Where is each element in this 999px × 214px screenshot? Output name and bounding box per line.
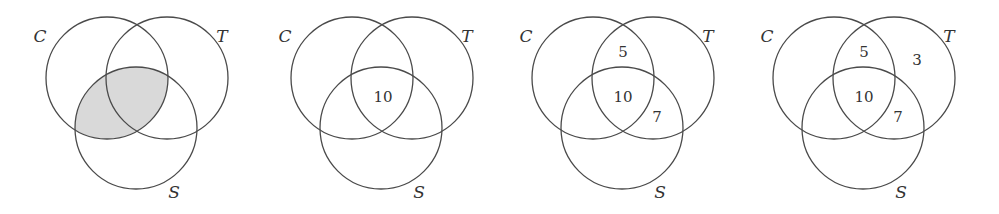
- region-count: 5: [618, 43, 628, 61]
- set-label-s: S: [168, 182, 180, 202]
- circle-c: [773, 17, 895, 139]
- region-count: 5: [859, 43, 869, 61]
- panel-2: CTS10: [278, 17, 474, 202]
- panel-3: CTS5107: [519, 17, 715, 202]
- region-count: 3: [912, 51, 922, 69]
- circle-s: [802, 67, 924, 189]
- circle-c: [532, 17, 654, 139]
- set-label-c: C: [33, 26, 46, 46]
- circle-t: [351, 17, 473, 139]
- circle-s: [561, 67, 683, 189]
- set-label-s: S: [895, 182, 907, 202]
- region-count: 7: [893, 108, 903, 126]
- panel-1: CTS: [33, 17, 229, 202]
- region-count: 10: [373, 88, 392, 106]
- set-label-c: C: [278, 26, 291, 46]
- set-label-t: T: [702, 26, 715, 46]
- region-count: 10: [854, 88, 873, 106]
- venn-figure: CTSCTS10CTS5107CTS53107: [0, 0, 999, 214]
- set-label-t: T: [461, 26, 474, 46]
- set-label-t: T: [216, 26, 229, 46]
- circle-s: [320, 67, 442, 189]
- panel-4: CTS53107: [760, 17, 956, 202]
- set-label-s: S: [654, 182, 666, 202]
- region-count: 10: [613, 88, 632, 106]
- region-count: 7: [652, 108, 662, 126]
- set-label-t: T: [943, 26, 956, 46]
- circle-c: [291, 17, 413, 139]
- set-label-s: S: [413, 182, 425, 202]
- set-label-c: C: [760, 26, 773, 46]
- set-label-c: C: [519, 26, 532, 46]
